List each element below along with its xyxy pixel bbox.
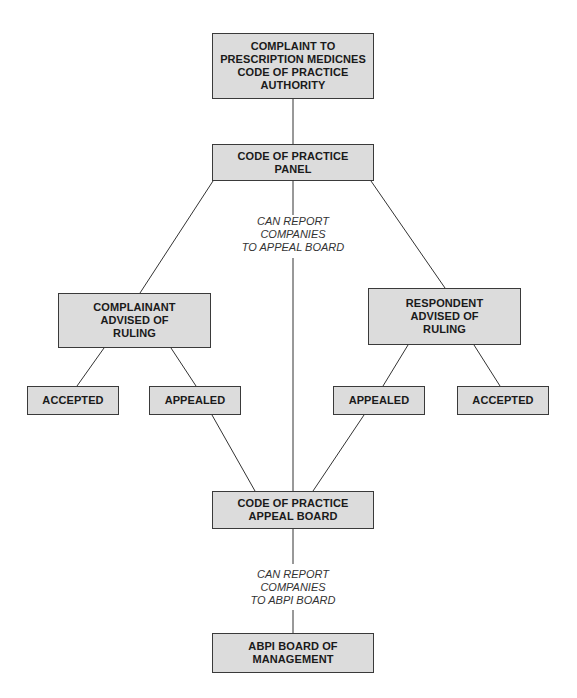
node-label: APPEALED <box>349 394 410 407</box>
node-label: COMPLAINANT ADVISED OF RULING <box>93 301 175 340</box>
node-label: CODE OF PRACTICE PANEL <box>238 150 349 176</box>
node-complaint: COMPLAINT TO PRESCRIPTION MEDICNES CODE … <box>212 33 374 99</box>
node-label: APPEALED <box>165 394 226 407</box>
edge-complainant-accepted <box>77 348 104 386</box>
annotation-report-to-abpi-board: CAN REPORT COMPANIES TO ABPI BOARD <box>228 568 358 607</box>
node-label: RESPONDENT ADVISED OF RULING <box>406 297 483 336</box>
node-appealed-right: APPEALED <box>333 386 425 415</box>
edge-respondent-appealed <box>383 345 408 386</box>
edge-complainant-appealed <box>171 348 196 386</box>
node-label: ACCEPTED <box>472 394 533 407</box>
node-code-of-practice-panel: CODE OF PRACTICE PANEL <box>212 144 374 181</box>
node-accepted-left: ACCEPTED <box>27 386 119 415</box>
node-respondent-advised: RESPONDENT ADVISED OF RULING <box>368 288 521 345</box>
node-appealed-left: APPEALED <box>149 386 241 415</box>
edge-appealed-right-board <box>313 415 364 491</box>
node-label: COMPLAINT TO PRESCRIPTION MEDICNES CODE … <box>220 40 366 92</box>
node-abpi-board: ABPI BOARD OF MANAGEMENT <box>212 633 374 673</box>
edge-respondent-accepted <box>474 345 500 386</box>
edge-panel-respondent <box>371 181 445 288</box>
annotation-report-to-appeal-board: CAN REPORT COMPANIES TO APPEAL BOARD <box>228 215 358 254</box>
edge-panel-complainant <box>140 181 213 293</box>
node-appeal-board: CODE OF PRACTICE APPEAL BOARD <box>212 491 374 529</box>
edge-appealed-left-board <box>212 415 255 491</box>
node-complainant-advised: COMPLAINANT ADVISED OF RULING <box>58 293 211 348</box>
node-label: ACCEPTED <box>42 394 103 407</box>
node-accepted-right: ACCEPTED <box>457 386 549 415</box>
node-label: ABPI BOARD OF MANAGEMENT <box>248 640 337 666</box>
node-label: CODE OF PRACTICE APPEAL BOARD <box>238 497 349 523</box>
